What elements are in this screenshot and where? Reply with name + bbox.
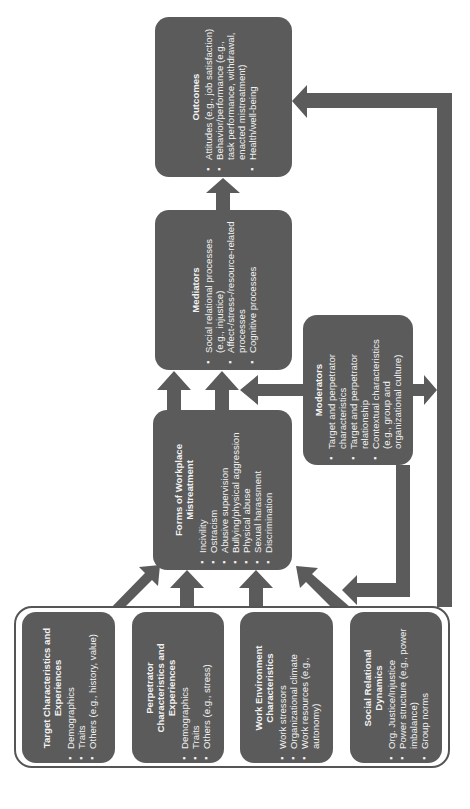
list-item: Behavior/performance (e.g., task perform… xyxy=(214,22,247,160)
arrow-moderators-right xyxy=(413,375,437,405)
arrow-mediators-to-outcomes xyxy=(206,178,240,210)
social-relational-list: Org. Justice/Injustice Power structure (… xyxy=(386,615,430,761)
list-item: Contextual characteristics (e.g., group … xyxy=(370,319,403,449)
perpetrator-characteristics-title: Perpetrator Characteristics and Experien… xyxy=(144,615,177,761)
work-environment-box: Work Environment Characteristics Work st… xyxy=(240,612,333,763)
list-item: Others (e.g., history, value) xyxy=(86,615,97,749)
list-item: Bullying/physical aggression xyxy=(229,415,240,553)
list-item: Target and perpetrator relationship xyxy=(348,319,370,449)
list-item: Affect-/stress-/resource-related process… xyxy=(225,215,247,353)
list-item: Physical abuse xyxy=(240,415,251,553)
feedback-bar xyxy=(437,93,452,607)
arrow-work-to-forms xyxy=(239,570,273,606)
list-item: Demographics xyxy=(179,615,190,749)
list-item: Work stressors xyxy=(277,615,288,749)
list-item: Abusive supervision xyxy=(218,415,229,553)
list-item: Traits xyxy=(190,615,201,749)
list-item: Demographics xyxy=(64,615,75,749)
forms-list: Incivility Ostracism Abusive supervision… xyxy=(196,415,273,565)
list-item: Attitudes (e.g., job satisfaction) xyxy=(203,22,214,160)
arrow-moderators-left xyxy=(240,375,303,405)
arrow-perpetrator-to-forms xyxy=(170,570,204,606)
arrow-forms-to-mediators-1 xyxy=(157,371,191,410)
social-relational-title: Social Relational Dynamics xyxy=(362,615,384,761)
list-item: Cognitive processes xyxy=(247,215,258,353)
list-item: Group norms xyxy=(419,615,430,749)
work-environment-title: Work Environment Characteristics xyxy=(253,615,275,761)
outcomes-box: Outcomes Attitudes (e.g., job satisfacti… xyxy=(155,17,292,177)
target-characteristics-title: Target Characteristics and Experiences xyxy=(40,615,62,761)
moderators-box: Moderators Target and perpetrator charac… xyxy=(303,315,413,465)
mediators-box: Mediators Social relational processes (e… xyxy=(155,210,292,370)
outcomes-list: Attitudes (e.g., job satisfaction) Behav… xyxy=(203,22,258,172)
list-item: Work resources (e.g., autonomy) xyxy=(299,615,321,749)
arrow-forms-to-mediators-2 xyxy=(205,371,239,410)
list-item: Health/well-being xyxy=(247,22,258,160)
mediators-list: Social relational processes (e.g., injus… xyxy=(203,215,258,365)
list-item: Traits xyxy=(75,615,86,749)
forms-title: Forms of Workplace Mistreatment xyxy=(172,415,194,565)
outcomes-title: Outcomes xyxy=(190,22,201,172)
forms-box: Forms of Workplace Mistreatment Incivili… xyxy=(153,410,292,570)
list-item: Org. Justice/Injustice xyxy=(386,615,397,749)
list-item: Incivility xyxy=(196,415,207,553)
list-item: Discrimination xyxy=(262,415,273,553)
list-item: Power structure (e.g., power imbalance) xyxy=(397,615,419,749)
work-environment-list: Work stressors Organizational climate Wo… xyxy=(277,615,321,761)
list-item: Sexual harassment xyxy=(251,415,262,553)
target-characteristics-list: Demographics Traits Others (e.g., histor… xyxy=(64,615,97,761)
list-item: Others (e.g., stress) xyxy=(201,615,212,749)
mediators-title: Mediators xyxy=(190,215,201,365)
moderators-title: Moderators xyxy=(313,319,324,461)
target-characteristics-box: Target Characteristics and Experiences D… xyxy=(22,612,115,763)
perpetrator-characteristics-box: Perpetrator Characteristics and Experien… xyxy=(132,612,224,763)
perpetrator-characteristics-list: Demographics Traits Others (e.g., stress… xyxy=(179,615,212,761)
arrow-feedback-to-outcomes xyxy=(292,85,452,118)
list-item: Target and perpetrator characteristics xyxy=(326,319,348,449)
moderators-list: Target and perpetrator characteristics T… xyxy=(326,319,403,461)
social-relational-box: Social Relational Dynamics Org. Justice/… xyxy=(350,612,442,763)
moderators-bar xyxy=(396,465,410,597)
list-item: Ostracism xyxy=(207,415,218,553)
list-item: Organizational climate xyxy=(288,615,299,749)
list-item: Social relational processes (e.g., injus… xyxy=(203,215,225,353)
